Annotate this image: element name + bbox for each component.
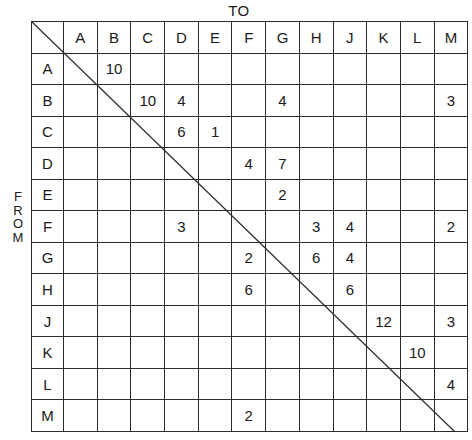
cell-d-d <box>165 148 199 180</box>
cell-k-k <box>367 337 401 369</box>
cell-e-k <box>367 179 401 211</box>
row-header-f: F <box>32 211 64 243</box>
cell-e-b <box>97 179 131 211</box>
cell-f-c <box>131 211 165 243</box>
cell-l-d <box>165 368 199 400</box>
row-header-j: J <box>32 305 64 337</box>
cell-a-m <box>434 53 468 85</box>
cell-g-a <box>64 242 98 274</box>
cell-a-h <box>299 53 333 85</box>
cell-d-h <box>299 148 333 180</box>
cell-l-f <box>232 368 266 400</box>
cell-c-f <box>232 116 266 148</box>
cell-g-b <box>97 242 131 274</box>
cell-c-l <box>400 116 434 148</box>
column-header-b: B <box>97 22 131 54</box>
cell-k-c <box>131 337 165 369</box>
cell-l-b <box>97 368 131 400</box>
cell-g-e <box>198 242 232 274</box>
column-header-k: K <box>367 22 401 54</box>
column-header-c: C <box>131 22 165 54</box>
cell-e-j <box>333 179 367 211</box>
from-axis-letter: F <box>9 190 27 204</box>
cell-b-e <box>198 85 232 117</box>
cell-h-c <box>131 274 165 306</box>
cell-f-h: 3 <box>299 211 333 243</box>
row-header-c: C <box>32 116 64 148</box>
cell-h-b <box>97 274 131 306</box>
cell-d-j <box>333 148 367 180</box>
cell-d-c <box>131 148 165 180</box>
cell-b-k <box>367 85 401 117</box>
cell-l-l <box>400 368 434 400</box>
cell-d-g: 7 <box>266 148 300 180</box>
cell-f-l <box>400 211 434 243</box>
cell-e-e <box>198 179 232 211</box>
cell-k-h <box>299 337 333 369</box>
cell-j-c <box>131 305 165 337</box>
row-header-d: D <box>32 148 64 180</box>
matrix-row: B10443 <box>32 85 468 117</box>
matrix-table: ABCDEFGHJKLMA10B10443C61D47E2F3342G264H6… <box>31 21 468 432</box>
cell-j-m: 3 <box>434 305 468 337</box>
cell-k-e <box>198 337 232 369</box>
cell-a-a <box>64 53 98 85</box>
cell-c-b <box>97 116 131 148</box>
from-axis-letter: M <box>9 231 27 245</box>
cell-f-m: 2 <box>434 211 468 243</box>
cell-a-l <box>400 53 434 85</box>
cell-g-l <box>400 242 434 274</box>
cell-f-b <box>97 211 131 243</box>
from-axis-letter: O <box>9 217 27 231</box>
to-axis-label: TO <box>0 2 472 19</box>
cell-b-f <box>232 85 266 117</box>
matrix-grid: ABCDEFGHJKLMA10B10443C61D47E2F3342G264H6… <box>31 21 455 432</box>
cell-m-h <box>299 400 333 432</box>
cell-m-m <box>434 400 468 432</box>
cell-b-j <box>333 85 367 117</box>
cell-l-h <box>299 368 333 400</box>
cell-b-b <box>97 85 131 117</box>
matrix-row: F3342 <box>32 211 468 243</box>
cell-j-h <box>299 305 333 337</box>
cell-g-h: 6 <box>299 242 333 274</box>
cell-g-g <box>266 242 300 274</box>
cell-m-j <box>333 400 367 432</box>
matrix-corner-cell <box>32 22 64 54</box>
cell-k-a <box>64 337 98 369</box>
cell-m-c <box>131 400 165 432</box>
row-header-e: E <box>32 179 64 211</box>
cell-j-k: 12 <box>367 305 401 337</box>
matrix-row: H66 <box>32 274 468 306</box>
row-header-g: G <box>32 242 64 274</box>
cell-k-l: 10 <box>400 337 434 369</box>
column-header-m: M <box>434 22 468 54</box>
row-header-a: A <box>32 53 64 85</box>
cell-l-a <box>64 368 98 400</box>
cell-f-e <box>198 211 232 243</box>
cell-a-b: 10 <box>97 53 131 85</box>
row-header-k: K <box>32 337 64 369</box>
cell-m-b <box>97 400 131 432</box>
cell-c-d: 6 <box>165 116 199 148</box>
cell-c-a <box>64 116 98 148</box>
cell-h-f: 6 <box>232 274 266 306</box>
row-header-h: H <box>32 274 64 306</box>
cell-j-b <box>97 305 131 337</box>
cell-k-f <box>232 337 266 369</box>
cell-m-g <box>266 400 300 432</box>
cell-g-f: 2 <box>232 242 266 274</box>
cell-f-d: 3 <box>165 211 199 243</box>
matrix-row: L4 <box>32 368 468 400</box>
cell-c-m <box>434 116 468 148</box>
cell-m-d <box>165 400 199 432</box>
cell-b-c: 10 <box>131 85 165 117</box>
column-header-e: E <box>198 22 232 54</box>
cell-b-l <box>400 85 434 117</box>
cell-d-k <box>367 148 401 180</box>
cell-j-j <box>333 305 367 337</box>
matrix-row: E2 <box>32 179 468 211</box>
cell-b-d: 4 <box>165 85 199 117</box>
from-axis-letter: R <box>9 204 27 218</box>
cell-d-l <box>400 148 434 180</box>
